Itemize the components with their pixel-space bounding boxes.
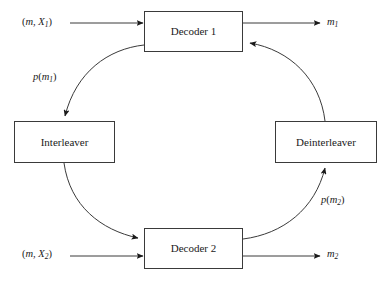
- label-output-1-base: m: [327, 16, 335, 27]
- label-input-2-subscript: 2: [45, 252, 49, 261]
- label-output-2-base: m: [327, 248, 335, 259]
- label-extrinsic-1: p(m1): [33, 72, 57, 83]
- label-extrinsic-2-paren-close: ): [341, 194, 345, 205]
- label-output-1-subscript: 1: [335, 20, 339, 29]
- label-extrinsic-1-subscript: 1: [49, 75, 53, 84]
- label-input-2: (m, X2): [22, 249, 52, 260]
- edge-deinterleaver-decoder1: [250, 43, 325, 121]
- node-interleaver-label: Interleaver: [41, 137, 89, 148]
- label-extrinsic-2-subscript: 2: [337, 198, 341, 207]
- node-decoder2-label: Decoder 2: [171, 243, 217, 254]
- label-extrinsic-2: p(m2): [321, 195, 345, 206]
- edge-interleaver-decoder2: [64, 163, 138, 238]
- label-input-1-paren-close: ): [49, 16, 53, 27]
- node-deinterleaver[interactable]: Deinterleaver: [275, 121, 377, 163]
- edge-decoder2-deinterleaver: [243, 168, 325, 239]
- label-input-1-var: X: [38, 16, 44, 27]
- label-input-2-paren-close: ): [49, 248, 53, 259]
- node-decoder2[interactable]: Decoder 2: [144, 228, 243, 269]
- node-decoder1[interactable]: Decoder 1: [144, 11, 243, 52]
- label-input-2-var: X: [38, 248, 44, 259]
- label-input-1-subscript: 1: [45, 20, 49, 29]
- edge-decoder1-interleaver: [65, 45, 144, 116]
- label-input-2-base: m: [26, 248, 34, 259]
- node-deinterleaver-label: Deinterleaver: [296, 137, 356, 148]
- label-input-1: (m, X1): [22, 17, 52, 28]
- label-output-2-subscript: 2: [335, 252, 339, 261]
- node-decoder1-label: Decoder 1: [171, 26, 217, 37]
- turbo-decoder-diagram: Decoder 1 Decoder 2 Interleaver Deinterl…: [0, 0, 391, 281]
- label-output-2: m2: [327, 249, 338, 260]
- label-extrinsic-1-paren-close: ): [53, 71, 57, 82]
- label-output-1: m1: [327, 17, 338, 28]
- node-interleaver[interactable]: Interleaver: [14, 121, 115, 163]
- label-input-1-base: m: [26, 16, 34, 27]
